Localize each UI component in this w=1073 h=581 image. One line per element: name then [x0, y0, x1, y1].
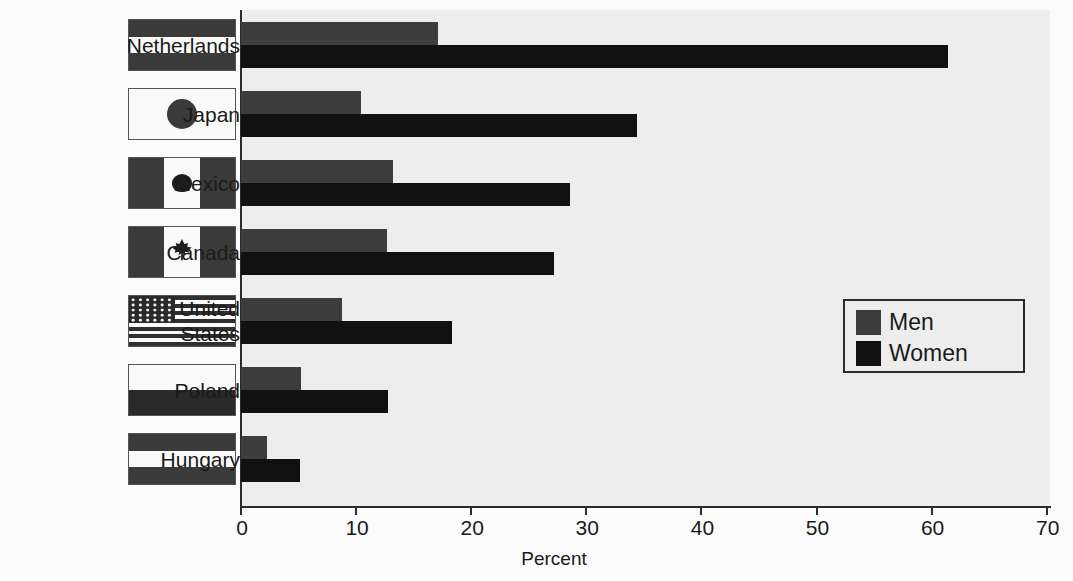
x-tick-60: [931, 506, 933, 515]
x-tick-label-70: 70: [1018, 516, 1073, 540]
category-label-line: Canada: [118, 240, 240, 265]
bar-chart: 010203040506070 NetherlandsJapanMexicoCa…: [0, 0, 1073, 581]
x-tick-40: [700, 506, 702, 515]
bar-women-poland: [241, 390, 388, 413]
bar-women-united-states: [241, 321, 452, 344]
category-label-line: Hungary: [118, 447, 240, 472]
category-row: UnitedStates: [0, 295, 240, 347]
bar-men-mexico: [241, 160, 393, 183]
x-tick-20: [470, 506, 472, 515]
x-axis-line: [240, 506, 1051, 508]
category-label-canada: Canada: [118, 240, 240, 265]
legend-swatch-women: [856, 341, 881, 366]
category-label-japan: Japan: [118, 102, 240, 127]
category-row: Hungary: [0, 433, 240, 485]
category-label-united-states: UnitedStates: [118, 296, 240, 346]
category-row: Mexico: [0, 157, 240, 209]
category-label-line: Mexico: [118, 171, 240, 196]
x-tick-label-60: 60: [903, 516, 963, 540]
bar-women-hungary: [241, 459, 300, 482]
bar-men-netherlands: [241, 22, 438, 45]
x-tick-30: [585, 506, 587, 515]
category-label-mexico: Mexico: [118, 171, 240, 196]
bar-women-mexico: [241, 183, 570, 206]
bar-women-canada: [241, 252, 554, 275]
x-tick-50: [816, 506, 818, 515]
bar-men-hungary: [241, 436, 267, 459]
bar-men-canada: [241, 229, 387, 252]
bar-women-japan: [241, 114, 637, 137]
category-label-netherlands: Netherlands: [118, 33, 240, 58]
legend-label-women: Women: [889, 338, 968, 368]
category-label-line: Poland: [118, 378, 240, 403]
x-axis-title: Percent: [0, 548, 1073, 570]
bar-women-netherlands: [241, 45, 948, 68]
legend: Men Women: [843, 299, 1025, 373]
bar-men-united-states: [241, 298, 342, 321]
bar-men-japan: [241, 91, 361, 114]
x-tick-10: [355, 506, 357, 515]
category-row: Netherlands: [0, 19, 240, 71]
x-tick-label-40: 40: [672, 516, 732, 540]
category-row: Canada: [0, 226, 240, 278]
category-label-line: States: [118, 321, 240, 346]
x-tick-label-10: 10: [327, 516, 387, 540]
x-tick-0: [240, 506, 242, 515]
category-label-line: Netherlands: [118, 33, 240, 58]
x-tick-70: [1046, 506, 1048, 515]
category-row: Japan: [0, 88, 240, 140]
bar-men-poland: [241, 367, 301, 390]
x-tick-label-20: 20: [442, 516, 502, 540]
legend-swatch-men: [856, 310, 881, 335]
category-row: Poland: [0, 364, 240, 416]
legend-label-men: Men: [889, 307, 934, 337]
x-axis-title-text: Percent: [521, 548, 586, 570]
category-label-hungary: Hungary: [118, 447, 240, 472]
category-label-poland: Poland: [118, 378, 240, 403]
x-tick-label-50: 50: [788, 516, 848, 540]
category-label-line: United: [118, 296, 240, 321]
category-label-line: Japan: [118, 102, 240, 127]
x-tick-label-0: 0: [212, 516, 272, 540]
x-tick-label-30: 30: [557, 516, 617, 540]
